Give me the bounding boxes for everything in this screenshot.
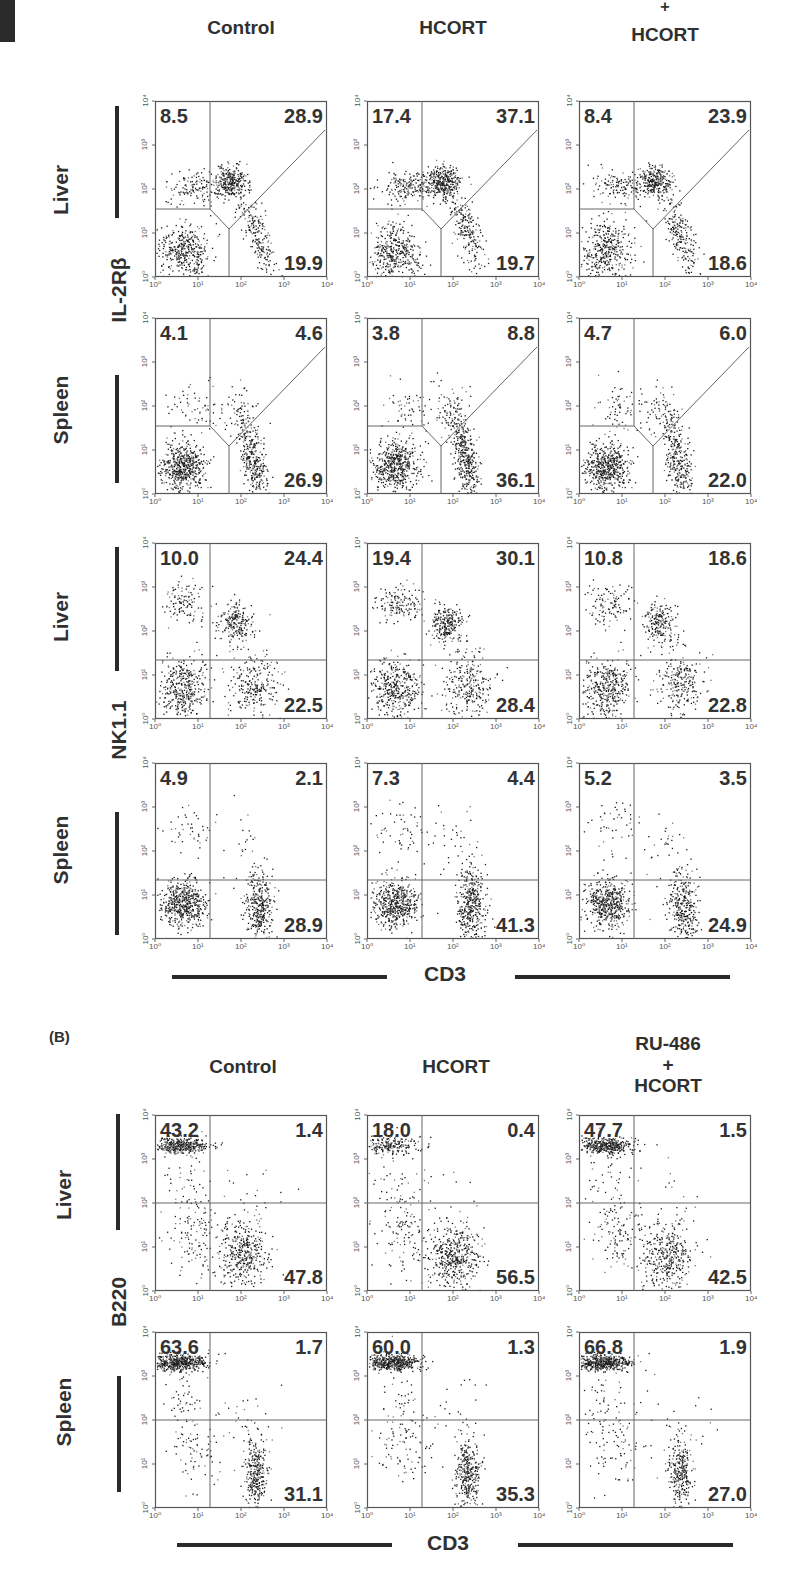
upper-right-percentage: 37.1 bbox=[496, 106, 535, 126]
lower-right-percentage: 56.5 bbox=[496, 1267, 535, 1287]
dot-plot-nk11-liver-3: 10⁰10⁰10¹10¹10²10²10³10³10⁴10⁴10.818.622… bbox=[579, 543, 751, 719]
lower-right-percentage: 47.8 bbox=[284, 1267, 323, 1287]
y-tick-label: 10¹ bbox=[140, 1241, 149, 1253]
x-tick-label: 10² bbox=[447, 1511, 459, 1520]
x-tick-label: 10⁰ bbox=[149, 280, 161, 289]
x-tick-label: 10³ bbox=[278, 942, 290, 951]
x-tick-label: 10² bbox=[235, 1294, 247, 1303]
dot-plot-il2r-liver-2: 10⁰10⁰10¹10¹10²10²10³10³10⁴10⁴17.437.119… bbox=[367, 101, 539, 277]
row-bar-liver-il2rb bbox=[115, 106, 119, 218]
x-tick-label: 10⁴ bbox=[321, 497, 333, 506]
scatter-plot-area bbox=[367, 763, 539, 939]
upper-left-percentage: 10.8 bbox=[584, 548, 623, 568]
row-label-liver-b220: Liver bbox=[52, 1135, 76, 1255]
x-tick-label: 10² bbox=[235, 722, 247, 731]
y-tick-label: 10³ bbox=[140, 356, 149, 368]
row-label-liver-nk11: Liver bbox=[49, 557, 73, 677]
y-tick-label: 10⁰ bbox=[141, 932, 150, 944]
y-tick-label: 10² bbox=[564, 183, 573, 195]
dot-plot-il2r-spleen-2: 10⁰10⁰10¹10¹10²10²10³10³10⁴10⁴3.88.836.1 bbox=[367, 318, 539, 494]
x-tick-label: 10³ bbox=[278, 280, 290, 289]
y-tick-label: 10⁴ bbox=[565, 94, 574, 106]
y-tick-label: 10¹ bbox=[352, 444, 361, 456]
upper-right-percentage: 8.8 bbox=[507, 323, 535, 343]
panel-label-block bbox=[0, 0, 15, 42]
x-tick-label: 10³ bbox=[702, 497, 714, 506]
column-header-ru486-b: RU-486 bbox=[578, 1033, 758, 1055]
y-tick-label: 10⁰ bbox=[353, 932, 362, 944]
x-tick-label: 10⁰ bbox=[149, 722, 161, 731]
lower-right-percentage: 18.6 bbox=[708, 253, 747, 273]
y-tick-label: 10⁰ bbox=[353, 712, 362, 724]
x-tick-label: 10⁴ bbox=[321, 280, 333, 289]
lower-right-percentage: 22.5 bbox=[284, 695, 323, 715]
row-bar-spleen-il2rb bbox=[115, 375, 119, 483]
row-bar-liver-nk11 bbox=[115, 547, 119, 671]
y-tick-label: 10⁴ bbox=[141, 1325, 150, 1337]
x-tick-label: 10⁴ bbox=[533, 942, 545, 951]
y-tick-label: 10⁰ bbox=[565, 932, 574, 944]
scatter-plot-area bbox=[155, 101, 327, 277]
y-tick-label: 10¹ bbox=[352, 227, 361, 239]
x-tick-label: 10² bbox=[447, 497, 459, 506]
y-tick-label: 10⁴ bbox=[353, 1108, 362, 1120]
column-header-hcort-combo-a: HCORT bbox=[575, 24, 755, 46]
scatter-plot-area bbox=[579, 101, 751, 277]
upper-left-percentage: 5.2 bbox=[584, 768, 612, 788]
upper-left-percentage: 10.0 bbox=[160, 548, 199, 568]
y-axis-title-nk11: NK1.1 bbox=[107, 670, 131, 790]
row-bar-spleen-b220 bbox=[117, 1376, 121, 1492]
x-tick-label: 10¹ bbox=[404, 497, 416, 506]
scatter-plot-area bbox=[367, 101, 539, 277]
y-tick-label: 10⁴ bbox=[353, 94, 362, 106]
upper-right-percentage: 18.6 bbox=[708, 548, 747, 568]
y-tick-label: 10² bbox=[564, 1414, 573, 1426]
x-tick-label: 10³ bbox=[278, 1511, 290, 1520]
y-tick-label: 10³ bbox=[140, 1153, 149, 1165]
x-tick-label: 10⁰ bbox=[149, 1511, 161, 1520]
x-tick-label: 10³ bbox=[702, 942, 714, 951]
y-tick-label: 10³ bbox=[140, 1370, 149, 1382]
x-tick-label: 10⁰ bbox=[361, 280, 373, 289]
dot-plot-b220-spleen-3: 10⁰10⁰10¹10¹10²10²10³10³10⁴10⁴66.81.927.… bbox=[579, 1332, 751, 1508]
y-tick-label: 10³ bbox=[352, 1153, 361, 1165]
x-tick-label: 10³ bbox=[490, 722, 502, 731]
x-tick-label: 10² bbox=[235, 1511, 247, 1520]
upper-left-percentage: 43.2 bbox=[160, 1120, 199, 1140]
x-tick-label: 10⁰ bbox=[361, 722, 373, 731]
y-tick-label: 10¹ bbox=[140, 889, 149, 901]
y-tick-label: 10⁰ bbox=[353, 1501, 362, 1513]
x-tick-label: 10⁰ bbox=[573, 497, 585, 506]
y-tick-label: 10⁴ bbox=[353, 536, 362, 548]
x-tick-label: 10⁰ bbox=[361, 497, 373, 506]
x-tick-label: 10¹ bbox=[616, 280, 628, 289]
lower-right-percentage: 19.9 bbox=[284, 253, 323, 273]
y-tick-label: 10⁰ bbox=[141, 487, 150, 499]
y-tick-label: 10⁴ bbox=[565, 1108, 574, 1120]
x-tick-label: 10³ bbox=[702, 722, 714, 731]
y-tick-label: 10¹ bbox=[140, 669, 149, 681]
y-tick-label: 10¹ bbox=[564, 444, 573, 456]
x-tick-label: 10³ bbox=[490, 280, 502, 289]
y-tick-label: 10⁴ bbox=[141, 536, 150, 548]
lower-right-percentage: 22.8 bbox=[708, 695, 747, 715]
y-tick-label: 10¹ bbox=[564, 227, 573, 239]
y-tick-label: 10¹ bbox=[564, 669, 573, 681]
column-header-ru486-plus: + bbox=[575, 0, 755, 18]
x-tick-label: 10² bbox=[659, 722, 671, 731]
upper-left-percentage: 8.4 bbox=[584, 106, 612, 126]
y-tick-label: 10⁰ bbox=[353, 1284, 362, 1296]
y-tick-label: 10² bbox=[352, 1414, 361, 1426]
x-tick-label: 10² bbox=[447, 280, 459, 289]
y-tick-label: 10³ bbox=[140, 139, 149, 151]
x-tick-label: 10⁰ bbox=[361, 942, 373, 951]
x-tick-label: 10⁰ bbox=[149, 1294, 161, 1303]
x-tick-label: 10⁴ bbox=[321, 942, 333, 951]
x-tick-label: 10¹ bbox=[192, 1294, 204, 1303]
column-header-hcort-b: HCORT bbox=[366, 1056, 546, 1078]
upper-left-percentage: 4.9 bbox=[160, 768, 188, 788]
y-tick-label: 10⁰ bbox=[141, 1501, 150, 1513]
x-tick-label: 10⁰ bbox=[573, 722, 585, 731]
y-tick-label: 10⁰ bbox=[565, 487, 574, 499]
x-tick-label: 10⁰ bbox=[573, 1294, 585, 1303]
